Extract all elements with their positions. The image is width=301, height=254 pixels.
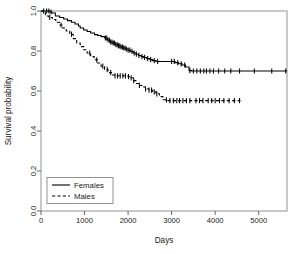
y-tick-label: 0.8 [29, 46, 38, 57]
x-tick-label: 1000 [76, 216, 93, 225]
y-tick-label: 0.0 [29, 206, 38, 217]
x-tick-label: 0 [39, 216, 43, 225]
y-tick-label: 0.6 [29, 86, 38, 97]
x-tick-label: 3000 [163, 216, 180, 225]
y-tick-label: 0.2 [29, 166, 38, 177]
survival-curve-chart: 0.00.20.40.60.81.0 010002000300040005000… [0, 0, 301, 254]
x-tick-label: 4000 [207, 216, 224, 225]
x-tick-label: 5000 [250, 216, 267, 225]
kaplan-meier-plot: 0.00.20.40.60.81.0 010002000300040005000… [0, 0, 301, 254]
x-axis-label: Days [155, 236, 174, 245]
x-tick-label: 2000 [120, 216, 137, 225]
y-tick-label: 0.4 [29, 126, 38, 137]
y-axis-label: Survival probability [4, 76, 13, 146]
legend-label-females: Females [74, 181, 104, 190]
y-tick-label: 1.0 [29, 6, 38, 17]
chart-legend: Females Males [47, 178, 113, 204]
legend-label-males: Males [74, 192, 95, 201]
